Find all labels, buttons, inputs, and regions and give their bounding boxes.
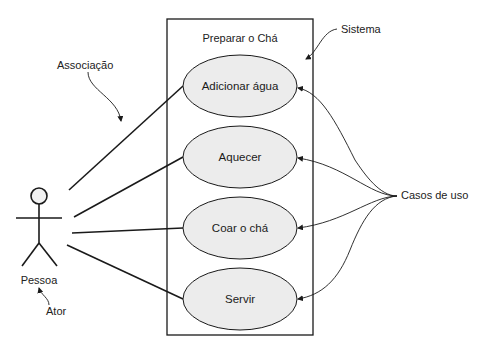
use-case-diagram: Preparar o Chá Adicionar água Aquecer Co… [0, 0, 482, 347]
association-line-servir [67, 245, 183, 299]
use-case-adicionar-agua[interactable]: Adicionar água [183, 55, 297, 117]
annotation-actor: Ator [46, 305, 67, 317]
use-case-servir[interactable]: Servir [183, 268, 297, 330]
annotation-system: Sistema [341, 23, 382, 35]
annotation-association: Associação [57, 59, 113, 71]
annotation-use-cases: Casos de uso [401, 189, 468, 201]
use-case-label: Servir [225, 293, 255, 305]
actor-head-icon [31, 188, 47, 204]
use-case-label: Adicionar água [202, 80, 279, 92]
association-lines [67, 86, 183, 299]
annotation-actor-arrow-icon [39, 288, 49, 305]
association-line-adicionar-agua [69, 86, 183, 190]
actor-left-leg-icon [22, 243, 39, 266]
system-title: Preparar o Chá [202, 32, 278, 44]
actor-name: Pessoa [21, 274, 59, 286]
actor-pessoa[interactable] [16, 188, 62, 266]
use-case-coar-o-cha[interactable]: Coar o chá [183, 197, 297, 259]
annotation-association-arrow-icon [88, 72, 121, 121]
use-case-label: Coar o chá [212, 222, 269, 234]
actor-right-leg-icon [39, 243, 57, 266]
annotation-system-arrow-icon [306, 29, 337, 59]
use-case-aquecer[interactable]: Aquecer [183, 126, 297, 188]
use-case-label: Aquecer [219, 151, 262, 163]
